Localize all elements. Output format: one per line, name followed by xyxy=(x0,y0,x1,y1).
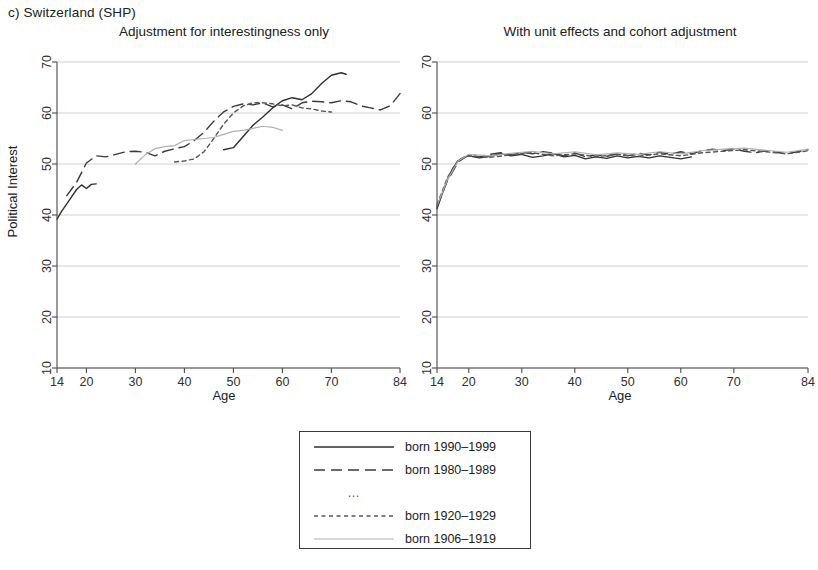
x-tick-label-60: 60 xyxy=(275,375,289,389)
x-tick-label-84: 84 xyxy=(393,375,407,389)
legend-line-sample xyxy=(312,462,396,478)
x-axis-label-left: Age xyxy=(0,388,412,403)
legend-label: born 1990–1999 xyxy=(405,440,496,454)
series-line-2 xyxy=(67,94,400,196)
y-tick-label-70: 70 xyxy=(40,55,54,69)
y-tick-label-30: 30 xyxy=(40,259,54,273)
x-tick-label-60: 60 xyxy=(674,375,688,389)
figure-caption: c) Switzerland (SHP) xyxy=(8,5,136,20)
y-tick-label-20: 20 xyxy=(40,310,54,324)
x-tick-label-70: 70 xyxy=(727,375,741,389)
y-tick-label-10: 10 xyxy=(420,361,434,375)
x-tick-label-30: 30 xyxy=(515,375,529,389)
chart-panel-left: Adjustment for interestingness only Poli… xyxy=(0,24,412,414)
legend-label: born 1980–1989 xyxy=(405,463,496,477)
legend-row: born 1920–1929 xyxy=(300,504,530,527)
x-tick-label-20: 20 xyxy=(462,375,476,389)
gridlines-group xyxy=(437,62,808,368)
series-line-3 xyxy=(175,103,332,162)
x-tick-label-50: 50 xyxy=(226,375,240,389)
plot-area-right: 102030405060701420304050607084 xyxy=(412,24,818,414)
x-axis-label-right: Age xyxy=(412,388,818,403)
legend-line-sample xyxy=(312,508,396,524)
legend-row: … xyxy=(300,481,530,504)
x-tick-label-84: 84 xyxy=(801,375,815,389)
series-line-0 xyxy=(437,154,691,209)
series-line-0 xyxy=(57,184,96,219)
legend-label: born 1920–1929 xyxy=(405,509,496,523)
series-line-1 xyxy=(224,73,347,150)
x-tick-label-14: 14 xyxy=(430,375,444,389)
y-tick-label-40: 40 xyxy=(40,208,54,222)
x-tick-label-70: 70 xyxy=(324,375,338,389)
chart-legend: born 1990–1999born 1980–1989…born 1920–1… xyxy=(299,431,531,549)
x-tick-label-20: 20 xyxy=(79,375,93,389)
plot-area-left: 102030405060701420304050607084 xyxy=(0,24,412,414)
legend-label: born 1906–1919 xyxy=(405,532,496,546)
y-tick-label-70: 70 xyxy=(420,55,434,69)
x-tick-label-50: 50 xyxy=(621,375,635,389)
y-tick-label-10: 10 xyxy=(40,361,54,375)
data-series-group xyxy=(437,148,808,209)
x-tick-label-40: 40 xyxy=(568,375,582,389)
legend-line-sample xyxy=(312,439,396,455)
legend-row: born 1906–1919 xyxy=(300,527,530,550)
gridlines-group xyxy=(57,62,400,368)
legend-row: born 1980–1989 xyxy=(300,458,530,481)
y-tick-label-50: 50 xyxy=(40,157,54,171)
series-line-2 xyxy=(437,150,808,205)
x-tick-label-40: 40 xyxy=(177,375,191,389)
y-tick-label-30: 30 xyxy=(420,259,434,273)
legend-ellipsis: … xyxy=(312,486,396,500)
chart-panel-right: With unit effects and cohort adjustment … xyxy=(412,24,818,414)
data-series-group xyxy=(57,73,400,219)
y-tick-label-60: 60 xyxy=(40,106,54,120)
axis-group: 102030405060701420304050607084 xyxy=(420,55,815,389)
x-tick-label-14: 14 xyxy=(50,375,64,389)
axis-group: 102030405060701420304050607084 xyxy=(40,55,407,389)
x-tick-label-30: 30 xyxy=(128,375,142,389)
y-tick-label-40: 40 xyxy=(420,208,434,222)
y-tick-label-50: 50 xyxy=(420,157,434,171)
y-tick-label-60: 60 xyxy=(420,106,434,120)
legend-row: born 1990–1999 xyxy=(300,435,530,458)
y-tick-label-20: 20 xyxy=(420,310,434,324)
legend-line-sample xyxy=(312,531,396,547)
